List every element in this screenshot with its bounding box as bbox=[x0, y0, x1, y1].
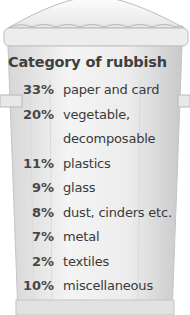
category-label: vegetable, bbox=[63, 107, 130, 122]
table-row: 10% miscellaneous bbox=[0, 278, 190, 303]
category-label: miscellaneous bbox=[63, 278, 153, 293]
table-row: 2% textiles bbox=[0, 254, 190, 279]
percent-value: 8% bbox=[32, 205, 54, 220]
category-label: glass bbox=[63, 180, 95, 195]
percent-value: 10% bbox=[23, 278, 54, 293]
rubbish-table: 33% paper and card 20% vegetable, decomp… bbox=[0, 82, 190, 303]
table-row: 33% paper and card bbox=[0, 82, 190, 107]
table-row: 20% vegetable, bbox=[0, 107, 190, 132]
category-label: textiles bbox=[63, 254, 109, 269]
category-label: plastics bbox=[63, 156, 111, 171]
chart-title: Category of rubbish bbox=[8, 54, 188, 70]
percent-value: 33% bbox=[23, 82, 54, 97]
percent-value: 11% bbox=[23, 156, 54, 171]
percent-value: 9% bbox=[32, 180, 54, 195]
table-row: 7% metal bbox=[0, 229, 190, 254]
category-label: dust, cinders etc. bbox=[63, 205, 172, 220]
table-row: 8% dust, cinders etc. bbox=[0, 205, 190, 230]
category-label: metal bbox=[63, 229, 99, 244]
table-row: 11% plastics bbox=[0, 156, 190, 181]
percent-value: 20% bbox=[23, 107, 54, 122]
percent-value: 2% bbox=[32, 254, 54, 269]
percent-value: 7% bbox=[32, 229, 54, 244]
table-row: 9% glass bbox=[0, 180, 190, 205]
table-row-continuation: decomposable bbox=[0, 131, 190, 156]
category-label: paper and card bbox=[63, 82, 159, 97]
category-label: decomposable bbox=[63, 131, 155, 146]
